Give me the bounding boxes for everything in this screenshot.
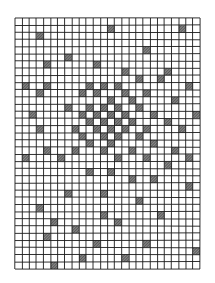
shaded-cell <box>143 90 150 97</box>
shaded-cell <box>93 61 100 68</box>
shaded-cell <box>43 83 50 90</box>
shaded-cell <box>115 104 122 111</box>
shaded-cell <box>36 90 43 97</box>
shaded-cell <box>100 104 107 111</box>
shaded-cell <box>108 140 115 147</box>
shaded-cell <box>143 126 150 133</box>
shaded-cell <box>93 126 100 133</box>
shaded-cell <box>115 154 122 161</box>
shaded-cell <box>51 262 58 269</box>
shaded-cell <box>100 118 107 125</box>
shaded-cell <box>129 176 136 183</box>
shaded-cell <box>79 111 86 118</box>
shaded-cell <box>172 147 179 154</box>
shaded-cell <box>93 240 100 247</box>
grid-svg <box>14 17 201 270</box>
shaded-cell <box>43 233 50 240</box>
shaded-cell <box>122 111 129 118</box>
shaded-cell <box>108 97 115 104</box>
shaded-cell <box>29 111 36 118</box>
shaded-cell <box>179 126 186 133</box>
shaded-cell <box>122 126 129 133</box>
shaded-cell <box>79 255 86 262</box>
shaded-cell <box>72 147 79 154</box>
shaded-cell <box>193 247 200 254</box>
shaded-cell <box>100 212 107 219</box>
shaded-cell <box>51 219 58 226</box>
shaded-cell <box>36 126 43 133</box>
shaded-cell <box>164 161 171 168</box>
shaded-cell <box>122 68 129 75</box>
shaded-cell <box>43 147 50 154</box>
shaded-cell <box>72 226 79 233</box>
hatched-grid-drawing <box>14 17 199 268</box>
shaded-cell <box>136 133 143 140</box>
shaded-cell <box>150 176 157 183</box>
shaded-cell <box>136 75 143 82</box>
shaded-cell <box>65 104 72 111</box>
shaded-cell <box>72 126 79 133</box>
shaded-cell <box>79 133 86 140</box>
shaded-cell <box>86 118 93 125</box>
shaded-cell <box>22 154 29 161</box>
shaded-cell <box>122 90 129 97</box>
shaded-cell <box>136 104 143 111</box>
shaded-cell <box>22 83 29 90</box>
shaded-cell <box>129 97 136 104</box>
shaded-cell <box>129 147 136 154</box>
shaded-cell <box>65 190 72 197</box>
shaded-cell <box>129 118 136 125</box>
shaded-cell <box>115 219 122 226</box>
shaded-cell <box>143 154 150 161</box>
shaded-cell <box>108 169 115 176</box>
shaded-cell <box>150 111 157 118</box>
shaded-cell <box>65 54 72 61</box>
shaded-cell <box>157 75 164 82</box>
shaded-cell <box>100 190 107 197</box>
shaded-cell <box>43 61 50 68</box>
shaded-cell <box>100 147 107 154</box>
shaded-cell <box>108 126 115 133</box>
shaded-cell <box>58 154 65 161</box>
shaded-cell <box>93 90 100 97</box>
shaded-cell <box>115 83 122 90</box>
shaded-cell <box>150 140 157 147</box>
shaded-cell <box>36 32 43 39</box>
shaded-cell <box>86 83 93 90</box>
shaded-cell <box>100 83 107 90</box>
shaded-cell <box>108 25 115 32</box>
shaded-cell <box>86 140 93 147</box>
shaded-cell <box>100 133 107 140</box>
shaded-cell <box>164 118 171 125</box>
shaded-cell <box>136 197 143 204</box>
shaded-cell <box>193 111 200 118</box>
shaded-cell <box>164 68 171 75</box>
shaded-cell <box>115 118 122 125</box>
shaded-cell <box>86 104 93 111</box>
shaded-cell <box>36 204 43 211</box>
shaded-cell <box>79 90 86 97</box>
shaded-cell <box>186 154 193 161</box>
shaded-cell <box>143 240 150 247</box>
shaded-cell <box>93 111 100 118</box>
shaded-cell <box>186 83 193 90</box>
shaded-cell <box>179 25 186 32</box>
shaded-cell <box>143 47 150 54</box>
shaded-cell <box>86 169 93 176</box>
shaded-cell <box>108 111 115 118</box>
shaded-cell <box>122 255 129 262</box>
grid-lines <box>15 18 200 269</box>
shaded-cell <box>157 212 164 219</box>
shaded-cell <box>172 97 179 104</box>
shaded-cell <box>115 133 122 140</box>
shaded-cell <box>186 183 193 190</box>
